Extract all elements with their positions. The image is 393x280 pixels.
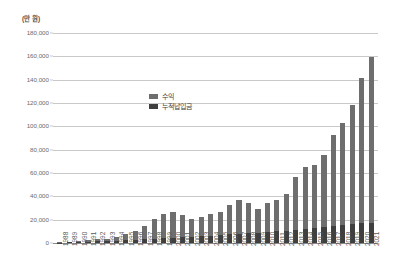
x-axis-tick-label: 2017 <box>336 232 342 246</box>
x-axis-label-slot: 1995 <box>121 245 130 279</box>
bar-chart-figure: (만 원) 180,000160,000140,000120,000100,00… <box>0 0 393 280</box>
x-axis-tick-label: 1989 <box>72 232 78 246</box>
x-axis-label-slot: 1997 <box>140 245 149 279</box>
x-axis-labels: 1988198919901991199219931994199519961997… <box>53 245 378 279</box>
legend-color-swatch <box>149 104 158 109</box>
plot-area: 180,000160,000140,000120,000100,00080,00… <box>53 33 378 243</box>
bar-segment-revenue <box>321 155 326 227</box>
y-axis-unit-label: (만 원) <box>22 13 40 23</box>
x-axis-tick-label: 2018 <box>345 232 351 246</box>
bar-slot <box>282 33 291 243</box>
bar-slot <box>159 33 168 243</box>
bar-slot <box>206 33 215 243</box>
x-axis-tick-label: 2016 <box>327 232 333 246</box>
y-axis-tick-label: 120,000 <box>27 100 49 106</box>
x-axis-label-slot: 1989 <box>64 245 73 279</box>
bar-slot <box>178 33 187 243</box>
bar-stack[interactable] <box>340 123 345 243</box>
x-axis-tick-label: 1996 <box>138 232 144 246</box>
x-axis-label-slot: 2006 <box>225 245 234 279</box>
x-axis-label-slot: 2015 <box>310 245 319 279</box>
bar-slot <box>83 33 92 243</box>
bar-segment-revenue <box>274 200 279 231</box>
bar-segment-revenue <box>227 205 232 234</box>
bar-segment-revenue <box>255 209 260 233</box>
bar-slot <box>366 33 375 243</box>
legend-item[interactable]: 누적납입금 <box>149 103 192 110</box>
x-axis-label-slot: 1988 <box>55 245 64 279</box>
y-axis-tick-label: 40,000 <box>30 193 49 199</box>
x-axis-tick-label: 2000 <box>176 232 182 246</box>
x-axis-label-slot: 2016 <box>319 245 328 279</box>
bar-stack[interactable] <box>359 78 364 243</box>
bar-segment-revenue <box>284 194 289 230</box>
x-axis-tick-label: 2011 <box>279 232 285 246</box>
bar-slot <box>64 33 73 243</box>
bar-segment-revenue <box>293 177 298 230</box>
x-axis-tick-label: 1999 <box>166 232 172 246</box>
bar-slot <box>253 33 262 243</box>
x-axis-tick-label: 1995 <box>128 232 134 246</box>
x-axis-label-slot: 1993 <box>102 245 111 279</box>
bar-slot <box>215 33 224 243</box>
bar-slot <box>291 33 300 243</box>
x-axis-label-slot: 2009 <box>253 245 262 279</box>
bar-stack[interactable] <box>331 135 336 243</box>
x-axis-tick-label: 2008 <box>251 232 257 246</box>
x-axis-label-slot: 2017 <box>329 245 338 279</box>
bar-slot <box>149 33 158 243</box>
x-axis-label-slot: 2020 <box>357 245 366 279</box>
bar-slot <box>244 33 253 243</box>
x-axis-tick-label: 2006 <box>232 232 238 246</box>
y-axis-tick-label: 140,000 <box>27 77 49 83</box>
bar-slot <box>121 33 130 243</box>
bar-slot <box>300 33 309 243</box>
y-axis-tick-label: 180,000 <box>27 30 49 36</box>
x-axis-tick-label: 2012 <box>289 232 295 246</box>
x-axis-label-slot: 2000 <box>168 245 177 279</box>
x-axis-tick-label: 1997 <box>147 232 153 246</box>
x-axis-label-slot: 2001 <box>178 245 187 279</box>
bar-segment-revenue <box>340 123 345 225</box>
legend-item[interactable]: 수익 <box>149 93 192 100</box>
x-axis-tick-label: 2021 <box>374 232 380 246</box>
x-axis-tick-label: 2019 <box>355 232 361 246</box>
legend-label: 누적납입금 <box>162 103 192 110</box>
bar-segment-revenue <box>303 167 308 229</box>
bar-slot <box>263 33 272 243</box>
x-axis-tick-label: 1990 <box>81 232 87 246</box>
bar-segment-revenue <box>350 105 355 224</box>
y-axis-tick-label: 60,000 <box>30 170 49 176</box>
x-axis-label-slot: 1996 <box>131 245 140 279</box>
bar-slot <box>112 33 121 243</box>
x-axis-label-slot: 2010 <box>263 245 272 279</box>
x-axis-label-slot: 2012 <box>282 245 291 279</box>
x-axis-label-slot: 2004 <box>206 245 215 279</box>
x-axis-label-slot: 2013 <box>291 245 300 279</box>
bar-slot <box>168 33 177 243</box>
chart-legend: 수익누적납입금 <box>149 93 192 110</box>
bar-slot <box>348 33 357 243</box>
x-axis-tick-label: 2014 <box>308 232 314 246</box>
bar-slot <box>234 33 243 243</box>
x-axis-tick-label: 1994 <box>119 232 125 246</box>
x-axis-tick-label: 2013 <box>298 232 304 246</box>
bar-segment-revenue <box>246 203 251 233</box>
x-axis-label-slot: 2002 <box>187 245 196 279</box>
bar-slot <box>187 33 196 243</box>
bar-stack[interactable] <box>350 105 355 243</box>
x-axis-tick-label: 1992 <box>100 232 106 246</box>
x-axis-label-slot: 1990 <box>74 245 83 279</box>
x-axis-label-slot: 2008 <box>244 245 253 279</box>
legend-label: 수익 <box>162 93 174 100</box>
bar-slot <box>140 33 149 243</box>
x-axis-label-slot: 2014 <box>300 245 309 279</box>
bar-segment-revenue <box>369 57 374 223</box>
bar-stack[interactable] <box>321 155 326 243</box>
x-axis-label-slot: 1992 <box>93 245 102 279</box>
y-axis-tick-label: 80,000 <box>30 147 49 153</box>
bars-container <box>53 33 378 243</box>
bar-stack[interactable] <box>369 57 374 243</box>
bar-slot <box>310 33 319 243</box>
x-axis-label-slot: 1994 <box>112 245 121 279</box>
